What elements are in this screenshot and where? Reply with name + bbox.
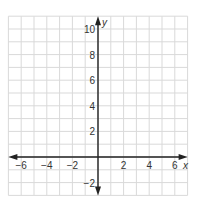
x-tick-label: 2 [121,160,127,171]
y-tick-label: 2 [89,126,95,137]
x-axis-label: x [182,160,189,171]
y-axis-label: y [101,17,108,28]
y-axis-up-arrow-icon [95,16,101,25]
y-tick-label: 8 [89,50,95,61]
x-tick-label: 4 [146,160,152,171]
y-tick-label: 4 [89,101,95,112]
x-tick-label: −6 [15,160,27,171]
y-tick-label: −2 [84,178,96,189]
tick-labels: −6−4−2246−2246810xy [15,17,189,188]
y-axis-down-arrow-icon [95,186,101,195]
x-tick-label: −4 [41,160,53,171]
y-tick-label: 10 [84,24,96,35]
x-tick-label: 6 [172,160,178,171]
y-tick-label: 6 [89,75,95,86]
x-tick-label: −2 [67,160,79,171]
coordinate-plane: −6−4−2246−2246810xy [0,0,198,207]
